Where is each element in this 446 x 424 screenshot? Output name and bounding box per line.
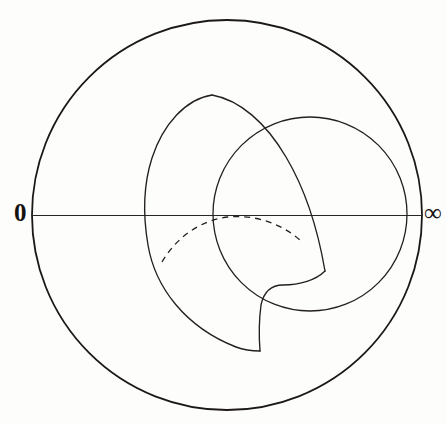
figure-canvas: 0 ∞ [0,0,446,424]
axis-label-zero: 0 [14,200,27,225]
geometric-diagram [0,0,446,424]
right-isometric-circle [213,117,407,311]
hidden-geodesic-arc [162,217,303,262]
axis-label-infinity: ∞ [424,200,442,225]
left-boundary-arc [145,95,260,351]
upper-right-arc [212,95,325,271]
